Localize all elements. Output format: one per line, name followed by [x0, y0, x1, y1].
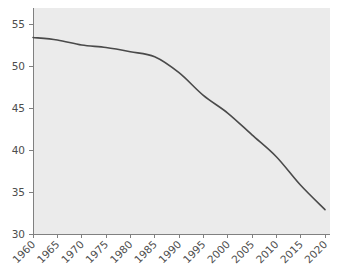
x-axis-tick-label: 1970 [59, 238, 86, 265]
x-axis-tick-label: 1995 [180, 238, 207, 265]
x-axis-tick-label: 2005 [229, 238, 256, 265]
x-axis-tick-label: 2015 [278, 238, 305, 265]
x-axis-tick-label: 2020 [302, 238, 329, 265]
y-axis-tick-labels: 303540455055 [12, 18, 25, 240]
x-axis-tick-label: 1980 [107, 238, 134, 265]
chart-canvas: 303540455055 196019651970197519801985199… [0, 0, 342, 275]
y-axis-tick-label: 30 [12, 228, 25, 240]
y-axis-tick-label: 45 [12, 102, 25, 114]
y-axis-tick-label: 35 [12, 186, 25, 198]
line-chart: 303540455055 196019651970197519801985199… [0, 0, 342, 275]
y-axis-tick-label: 40 [12, 144, 25, 156]
y-axis-tick-label: 50 [12, 60, 25, 72]
x-axis-tick-label: 1965 [34, 238, 61, 265]
x-axis-tick-label: 2000 [205, 238, 232, 265]
x-axis-tick-label: 1990 [156, 238, 183, 265]
y-axis-tick-label: 55 [12, 18, 25, 30]
x-axis-tick-label: 1985 [132, 238, 159, 265]
y-axis-ticks [29, 24, 33, 234]
x-axis-tick-label: 1975 [83, 238, 110, 265]
x-axis-tick-labels: 1960196519701975198019851990199520002005… [10, 238, 329, 265]
x-axis-tick-label: 2010 [253, 238, 280, 265]
plot-area-background [33, 8, 330, 234]
x-axis-tick-label: 1960 [10, 238, 37, 265]
